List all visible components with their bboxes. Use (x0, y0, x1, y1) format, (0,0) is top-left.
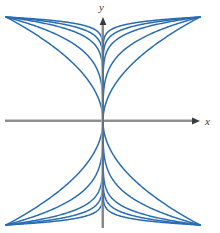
curve-n8-q3 (103, 121, 200, 225)
y-axis-arrowhead (100, 17, 107, 25)
axes-group (5, 17, 200, 228)
x-axis-arrowhead (192, 118, 200, 125)
curve-n32-q4 (6, 121, 103, 225)
x-axis-label: x (205, 116, 210, 127)
curve-n8-q1 (103, 17, 200, 121)
curve-n4-q1 (103, 17, 200, 121)
curve-n2-q2 (6, 17, 103, 121)
curve-n4-q2 (6, 17, 103, 121)
curve-n4-q3 (103, 121, 200, 225)
curve-family-figure: y x (0, 0, 220, 233)
curve-n8-q4 (6, 121, 103, 225)
curve-n16-q2 (6, 17, 103, 121)
curve-n8-q2 (6, 17, 103, 121)
y-axis-label: y (99, 2, 104, 13)
curve-n4-q4 (6, 121, 103, 225)
curve-n16-q1 (103, 17, 200, 121)
curve-n2-q3 (103, 121, 200, 225)
curve-n32-q2 (6, 17, 103, 121)
curve-n2-q4 (6, 121, 103, 225)
curve-n32-q1 (103, 17, 200, 121)
curve-n16-q3 (103, 121, 200, 225)
curve-n32-q3 (103, 121, 200, 225)
curve-n2-q1 (103, 17, 200, 121)
curve-n16-q4 (6, 121, 103, 225)
plot-canvas (0, 0, 220, 233)
